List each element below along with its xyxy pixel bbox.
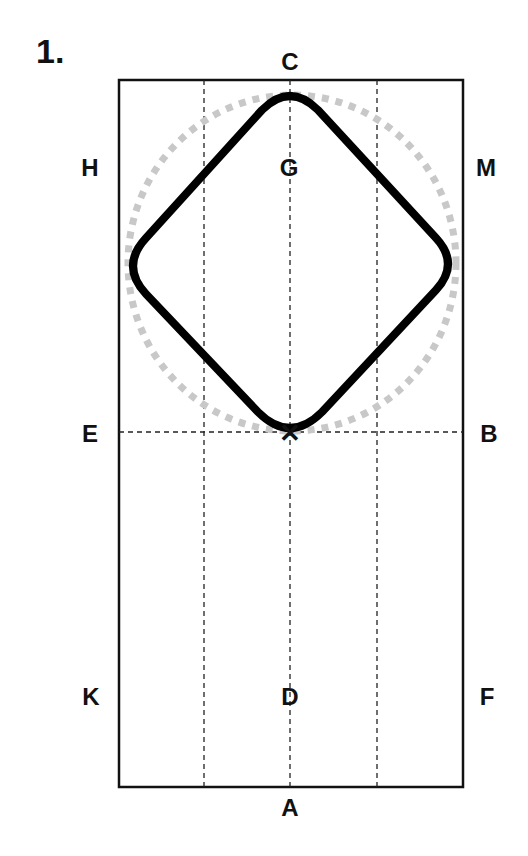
- letter-g: G: [280, 154, 299, 182]
- letter-e: E: [82, 420, 98, 448]
- reference-circle: [128, 95, 456, 431]
- letter-h: H: [81, 154, 98, 182]
- letter-a: A: [281, 794, 298, 822]
- arena-diagram: [0, 0, 528, 856]
- letter-b: B: [480, 420, 497, 448]
- letter-m: M: [476, 154, 496, 182]
- letter-k: K: [82, 683, 99, 711]
- letter-c: C: [281, 48, 298, 76]
- letter-f: F: [480, 683, 495, 711]
- letter-d: D: [281, 683, 298, 711]
- marker-x-icon: ✕: [279, 418, 301, 449]
